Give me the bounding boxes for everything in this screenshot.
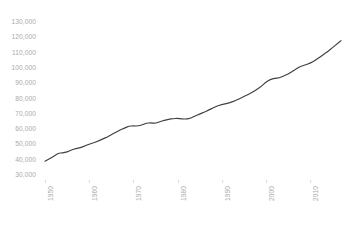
x-tick-label: 2000: [269, 186, 276, 201]
x-tick-label: 2010: [313, 186, 320, 201]
x-tick-mark: [310, 180, 311, 183]
x-tick-label: 1950: [48, 186, 55, 201]
x-tick-mark: [266, 180, 267, 183]
x-tick-mark: [222, 180, 223, 183]
x-tick-mark: [178, 180, 179, 183]
x-axis: 1950196019701980199020002010: [0, 0, 351, 227]
x-tick-label: 1970: [136, 186, 143, 201]
x-tick-label: 1980: [181, 186, 188, 201]
x-tick-mark: [45, 180, 46, 183]
x-tick-label: 1990: [225, 186, 232, 201]
x-tick-mark: [133, 180, 134, 183]
line-chart: 30,00040,00050,00060,00070,00080,00090,0…: [0, 0, 351, 227]
x-tick-label: 1960: [92, 186, 99, 201]
x-tick-mark: [89, 180, 90, 183]
